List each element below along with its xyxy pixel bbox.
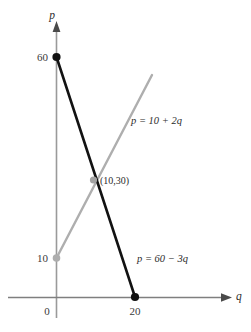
point-marker-demand-p-intercept <box>52 53 60 61</box>
y-tick-label-10: 10 <box>37 252 49 264</box>
supply-demand-figure: p q 60 10 0 20 p = 10 + 2q p = 60 − 3q (… <box>0 0 251 332</box>
x-axis-arrowhead <box>221 293 232 301</box>
demand-curve-label: p = 60 − 3q <box>136 253 188 264</box>
point-marker-equilibrium <box>90 176 97 183</box>
y-axis-label: p <box>48 9 55 22</box>
y-axis-arrowhead <box>53 21 61 32</box>
origin-label-0: 0 <box>44 305 50 317</box>
y-tick-label-60: 60 <box>37 51 49 63</box>
point-marker-supply-p-intercept <box>53 254 61 262</box>
chart-canvas: p q 60 10 0 20 p = 10 + 2q p = 60 − 3q (… <box>0 0 251 332</box>
point-marker-demand-q-intercept <box>131 293 139 301</box>
x-tick-label-20: 20 <box>130 305 142 317</box>
equilibrium-point-label: (10,30) <box>100 175 129 187</box>
x-axis-label: q <box>236 290 242 303</box>
axes-group <box>8 21 232 318</box>
supply-curve-label: p = 10 + 2q <box>130 115 182 126</box>
